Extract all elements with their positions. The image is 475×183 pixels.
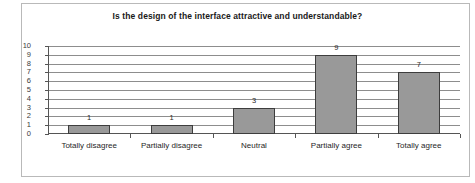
x-tick-mark	[130, 134, 131, 138]
bar-slot: 9	[295, 46, 377, 134]
bar-value-label: 9	[334, 44, 338, 52]
bar[interactable]	[315, 55, 357, 134]
y-tick-label: 2	[11, 112, 31, 120]
x-tick-mark	[295, 134, 296, 138]
chart-page: Is the design of the interface attractiv…	[0, 0, 475, 183]
bar-series: 11397	[48, 46, 460, 134]
y-tick-mark	[45, 134, 49, 135]
y-tick-label: 8	[11, 60, 31, 68]
y-tick-label: 5	[11, 86, 31, 94]
bar-value-label: 1	[169, 114, 173, 122]
bar-slot: 1	[130, 46, 212, 134]
bar-value-label: 7	[417, 61, 421, 69]
bar-value-label: 1	[87, 114, 91, 122]
bar-slot: 7	[378, 46, 460, 134]
y-tick-label: 1	[11, 121, 31, 129]
y-tick-label: 3	[11, 104, 31, 112]
x-tick-mark	[460, 134, 461, 138]
bar-slot: 3	[213, 46, 295, 134]
bar-value-label: 3	[252, 97, 256, 105]
y-tick-label: 10	[11, 42, 31, 50]
x-tick-label: Partially disagree	[130, 141, 212, 150]
bar[interactable]	[151, 125, 193, 134]
y-tick-label: 9	[11, 51, 31, 59]
bar-slot: 1	[48, 46, 130, 134]
x-tick-mark	[378, 134, 379, 138]
x-tick-label: Neutral	[213, 141, 295, 150]
x-tick-mark	[213, 134, 214, 138]
x-tick-label: Totally disagree	[48, 141, 130, 150]
x-tick-label: Partially agree	[295, 141, 377, 150]
bar[interactable]	[398, 72, 440, 134]
plot-area: 109876543210 11397 Totally disagreeParti…	[48, 46, 460, 134]
x-tick-label: Totally agree	[378, 141, 460, 150]
chart-title: Is the design of the interface attractiv…	[0, 11, 475, 21]
bar[interactable]	[68, 125, 110, 134]
y-tick-label: 0	[11, 130, 31, 138]
y-tick-label: 4	[11, 95, 31, 103]
y-tick-label: 7	[11, 68, 31, 76]
bar[interactable]	[233, 108, 275, 134]
y-tick-label: 6	[11, 77, 31, 85]
